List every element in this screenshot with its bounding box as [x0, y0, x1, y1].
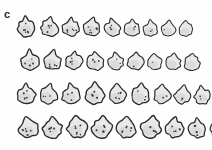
figure-panel-c: c: [0, 0, 212, 150]
specimen-glyph: [172, 83, 194, 109]
specimen-glyph: [176, 18, 196, 40]
specimen-outline: [162, 114, 188, 143]
specimen-outline: [176, 18, 196, 40]
specimen-outline: [150, 82, 174, 108]
specimen-outline: [207, 115, 212, 142]
specimen-glyph: [63, 113, 90, 142]
specimen-outline: [181, 51, 202, 74]
specimen-outline: [37, 15, 62, 41]
specimen-outline: [141, 18, 161, 41]
specimen-outline: [127, 81, 153, 109]
specimen-glyph: [13, 81, 40, 109]
specimen-glyph: [81, 16, 104, 41]
specimen-outline: [81, 80, 108, 109]
specimen-glyph: [40, 48, 64, 74]
specimen-row: [16, 112, 212, 142]
specimen-glyph: [162, 114, 188, 143]
specimen-outline: [40, 48, 64, 74]
specimen-glyph: [83, 49, 107, 74]
specimen-glyph: [186, 116, 210, 143]
specimen-outline: [39, 114, 65, 142]
specimen-outline: [59, 15, 82, 40]
specimen-outline: [191, 83, 212, 108]
specimen-glyph: [39, 114, 65, 142]
specimen-glyph: [114, 115, 140, 143]
specimen-outline: [13, 81, 40, 109]
specimen-glyph: [121, 17, 143, 41]
specimen-glyph: [81, 80, 108, 109]
specimen-outline: [13, 14, 40, 41]
specimen-glyph: [141, 18, 161, 41]
specimen-glyph: [62, 48, 85, 74]
specimen-outline: [88, 113, 116, 143]
specimen-body: [210, 118, 212, 137]
specimen-outline: [121, 17, 143, 41]
specimen-glyph: [150, 82, 174, 108]
specimen-outline: [62, 48, 85, 74]
specimen-glyph: [137, 113, 165, 143]
specimen-outline: [36, 81, 60, 108]
specimen-outline: [114, 115, 140, 143]
specimen-glyph: [15, 114, 42, 143]
specimen-outline: [63, 113, 90, 142]
specimen-glyph: [191, 83, 212, 108]
specimen-glyph: [105, 81, 129, 108]
specimen-outline: [105, 81, 129, 108]
specimen-row: [14, 78, 212, 108]
specimen-glyph: [59, 15, 82, 40]
specimen-outline: [163, 51, 184, 75]
specimen-glyph: [127, 81, 153, 109]
specimen-glyph: [37, 15, 62, 41]
specimen-glyph: [163, 51, 184, 75]
specimen-row: [18, 44, 212, 74]
specimen-outline: [186, 116, 210, 143]
specimen-outline: [15, 114, 42, 143]
specimen-outline: [81, 16, 104, 41]
specimen-glyph: [181, 51, 202, 74]
specimen-outline: [172, 83, 194, 109]
specimen-glyph: [36, 81, 60, 108]
specimen-glyph: [88, 113, 116, 143]
specimen-outline: [17, 48, 43, 75]
specimen-glyph: [13, 14, 40, 41]
panel-label: c: [4, 9, 10, 20]
specimen-glyph: [59, 82, 84, 109]
specimen-outline: [83, 49, 107, 74]
specimen-outline: [137, 113, 165, 143]
specimen-row: [14, 10, 212, 40]
specimen-glyph: [207, 115, 212, 142]
specimen-glyph: [17, 48, 43, 75]
specimen-outline: [59, 82, 84, 109]
